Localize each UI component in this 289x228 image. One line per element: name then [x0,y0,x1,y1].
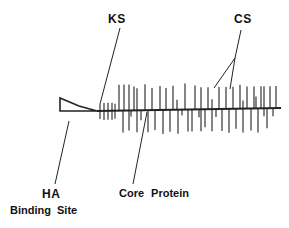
core-protein-label: Core Protein [119,188,189,199]
binding-site-label: Binding Site [10,205,77,216]
chondroitin-sulfate-label: CS [234,13,252,25]
ha-label: HA [42,188,60,200]
keratan-sulfate-label: KS [108,13,126,25]
